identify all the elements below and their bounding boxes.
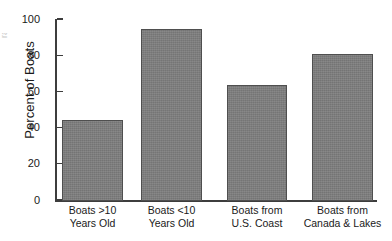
bar bbox=[141, 29, 202, 201]
y-axis-tick-mark bbox=[57, 55, 63, 56]
bar bbox=[312, 54, 373, 201]
bar-chart-figure: rate Percent of Boats 020406080100 Boats… bbox=[0, 0, 392, 241]
y-axis-tick-label: 100 bbox=[6, 14, 40, 25]
y-axis-tick-label: 60 bbox=[6, 86, 40, 97]
bar bbox=[62, 120, 123, 201]
category-label-line: Boats from bbox=[317, 204, 368, 216]
plot-area bbox=[55, 19, 377, 201]
category-label-line: Boats from bbox=[232, 204, 283, 216]
y-axis-tick-mark bbox=[57, 91, 63, 92]
y-axis-line bbox=[55, 19, 57, 201]
x-axis-category-label: Boats fromCanada & Lakes bbox=[283, 204, 392, 230]
y-axis-tick-label: 20 bbox=[6, 158, 40, 169]
bar bbox=[227, 85, 287, 201]
y-axis-tick-label: 40 bbox=[6, 122, 40, 133]
y-axis-tick-label: 80 bbox=[6, 50, 40, 61]
category-label-line: Boats >10 bbox=[69, 204, 117, 216]
y-axis-tick-mark bbox=[57, 18, 63, 19]
category-label-line: Canada & Lakes bbox=[283, 217, 392, 230]
category-label-line: Boats <10 bbox=[148, 204, 196, 216]
